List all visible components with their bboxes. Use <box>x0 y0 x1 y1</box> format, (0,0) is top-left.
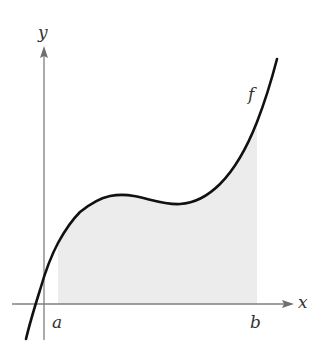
y-axis-label: y <box>37 22 48 42</box>
function-label: f <box>246 84 257 104</box>
shaded-region <box>58 122 257 304</box>
interval-end-label: b <box>250 312 261 332</box>
area-under-curve-figure: y x f a b <box>0 0 328 358</box>
x-axis-label: x <box>298 292 308 312</box>
interval-start-label: a <box>52 312 62 332</box>
